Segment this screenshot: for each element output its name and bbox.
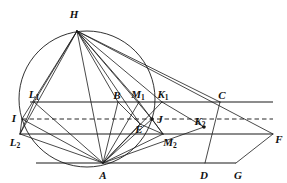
- segment-G-F: [236, 134, 273, 163]
- point-label-L1: L1: [29, 89, 39, 101]
- point-label-M2: M2: [163, 137, 177, 149]
- point-label-subscript-M2: 2: [173, 141, 177, 150]
- point-label-subscript-M1: 1: [141, 93, 145, 102]
- point-label-H: H: [70, 9, 79, 20]
- point-label-K1: K1: [157, 89, 168, 101]
- segment-A-B: [103, 102, 118, 163]
- point-label-K2: K2: [194, 116, 205, 128]
- point-label-subscript-K2: 2: [202, 120, 206, 129]
- segment-C-D: [205, 102, 220, 163]
- point-label-B: B: [113, 90, 120, 101]
- point-label-J: J: [157, 114, 163, 125]
- segment-H-C: [77, 31, 220, 102]
- segment-A-I: [22, 119, 103, 163]
- segment-A-K1: [103, 102, 162, 163]
- segment-H-I: [22, 31, 77, 119]
- segment-A-L2: [20, 134, 103, 163]
- segment-layer: [20, 31, 273, 163]
- point-label-M1: M1: [131, 89, 145, 101]
- point-label-A: A: [99, 170, 106, 181]
- segment-A-M1: [103, 102, 139, 163]
- segment-A-K2: [103, 127, 204, 163]
- point-label-subscript-L1: 1: [35, 93, 39, 102]
- point-label-I: I: [12, 113, 16, 124]
- point-label-E: E: [135, 124, 142, 135]
- point-label-C: C: [218, 90, 225, 101]
- point-label-L2: L2: [10, 137, 20, 149]
- point-label-G: G: [234, 170, 242, 181]
- point-label-subscript-K1: 1: [165, 93, 169, 102]
- geometry-figure: HL1IL2BM1K1CEJK2M2FADG: [0, 0, 287, 183]
- point-marker-J: [150, 117, 153, 120]
- point-label-D: D: [200, 170, 208, 181]
- segment-H-J: [77, 31, 152, 119]
- point-label-F: F: [275, 134, 282, 145]
- point-label-subscript-L2: 2: [16, 141, 20, 150]
